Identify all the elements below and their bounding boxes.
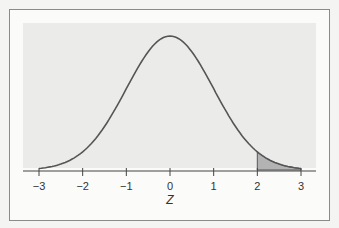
x-tick-label: 1 (211, 180, 217, 192)
normal-distribution-chart: −3−2−10123 Z (0, 0, 339, 228)
x-tick-label: −1 (120, 180, 133, 192)
x-tick-label: −3 (33, 180, 46, 192)
x-tick-label: 0 (167, 180, 173, 192)
x-axis-ticks: −3−2−10123 (33, 168, 304, 192)
x-tick-label: −2 (76, 180, 89, 192)
x-tick-label: 2 (254, 180, 260, 192)
plot-area (23, 23, 316, 168)
x-tick-label: 3 (298, 180, 304, 192)
x-axis-title: Z (165, 193, 174, 207)
